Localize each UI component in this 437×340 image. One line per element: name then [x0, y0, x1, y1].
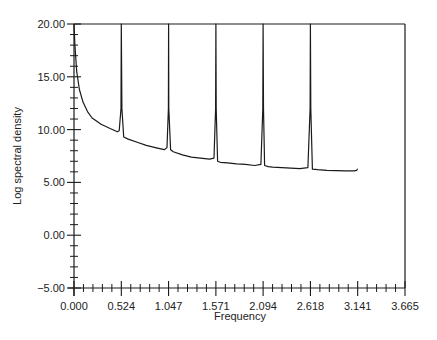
x-tick-label: 3.665: [391, 300, 419, 312]
y-tick-label: 10.00: [37, 124, 65, 136]
y-tick-label: 0.00: [44, 229, 65, 241]
x-tick-label: 0.000: [60, 300, 88, 312]
x-tick-label: 0.524: [108, 300, 136, 312]
x-axis-label: Frequency: [214, 310, 266, 322]
y-axis: −5.000.005.0010.0015.0020.00: [37, 18, 81, 296]
y-axis-label: Log spectral density: [11, 107, 23, 205]
y-tick-label: 15.00: [37, 71, 65, 83]
x-tick-label: 3.141: [344, 300, 372, 312]
series-line: [74, 24, 358, 171]
y-tick-label: 20.00: [37, 18, 65, 30]
x-tick-label: 1.047: [155, 300, 183, 312]
spectral-density-chart: −5.000.005.0010.0015.0020.00 0.0000.5241…: [0, 0, 437, 340]
x-axis: 0.0000.5241.0471.5712.0942.6183.1413.665: [60, 281, 419, 312]
y-tick-label: 5.00: [44, 176, 65, 188]
plot-frame: [74, 24, 405, 288]
y-tick-label: −5.00: [37, 282, 65, 294]
x-tick-label: 2.618: [297, 300, 325, 312]
